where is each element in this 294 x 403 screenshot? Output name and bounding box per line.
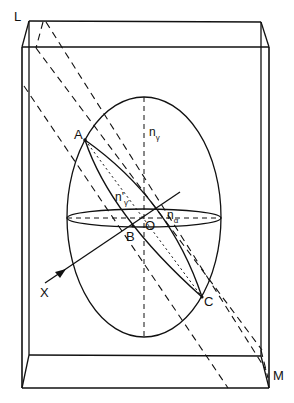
label-m: M bbox=[273, 368, 284, 383]
label-b: B bbox=[126, 229, 135, 244]
label-a: A bbox=[74, 127, 83, 142]
label-l: L bbox=[14, 9, 21, 24]
point-b-marker bbox=[131, 224, 134, 227]
crystal-box bbox=[22, 21, 269, 388]
label-n-gamma: nγ bbox=[149, 125, 160, 142]
ray-arrow-icon bbox=[55, 269, 66, 278]
wavefront-dashed-lines bbox=[24, 22, 268, 388]
indicatrix-diagram: L M A B C O X nγ n'γ' nα bbox=[0, 0, 294, 403]
label-o: O bbox=[145, 218, 155, 233]
label-x: X bbox=[40, 285, 49, 300]
point-a-marker bbox=[83, 138, 87, 142]
label-c: C bbox=[204, 294, 213, 309]
label-n-alpha: nα bbox=[167, 208, 179, 225]
